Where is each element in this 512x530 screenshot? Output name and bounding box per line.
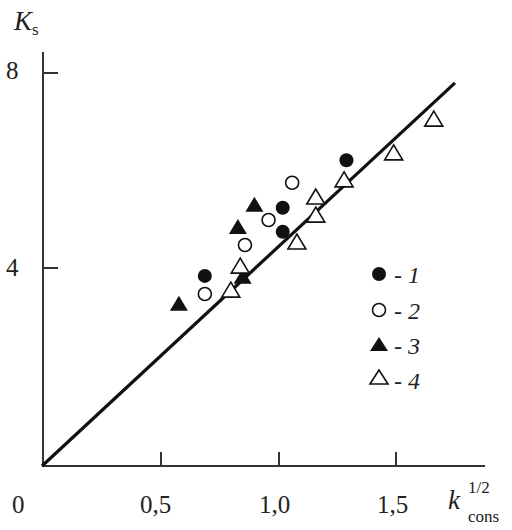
legend-marker-filled-triangle	[370, 337, 388, 351]
x-tick-label-15: 1,5	[377, 492, 408, 517]
x-tick-label-05: 0,5	[140, 492, 171, 517]
data-point-series-2	[286, 176, 299, 189]
data-point-series-4	[307, 207, 325, 222]
data-point-series-2	[198, 288, 211, 301]
data-point-series-1	[339, 153, 353, 167]
data-point-series-4	[231, 258, 249, 273]
data-point-series-4	[425, 111, 443, 126]
data-point-series-3	[245, 197, 263, 212]
x-tick-label-10: 1,0	[259, 492, 290, 517]
legend-marker-open-triangle	[370, 370, 388, 384]
legend-label-3: - 3	[394, 333, 420, 360]
y-tick-label-8: 8	[6, 58, 19, 83]
data-point-series-2	[262, 214, 275, 227]
data-point-series-1	[276, 225, 290, 239]
legend-label-4: - 4	[394, 368, 420, 395]
scatter-plot	[0, 0, 512, 530]
data-point-series-4	[307, 189, 325, 204]
legend-marker-filled-circle	[372, 267, 386, 281]
data-point-series-3	[170, 296, 188, 311]
data-point-series-2	[238, 239, 251, 252]
data-point-series-1	[198, 269, 212, 283]
y-axis-label: Ks	[14, 8, 39, 38]
x-tick-label-0: 0	[12, 492, 25, 517]
y-tick-label-4: 4	[6, 255, 19, 280]
legend-marker-open-circle	[373, 304, 386, 317]
legend-label-1: - 1	[394, 262, 420, 289]
legend	[370, 267, 388, 384]
legend-label-2: - 2	[394, 298, 420, 325]
data-point-series-1	[276, 201, 290, 215]
x-axis-label: k1/2cons	[448, 487, 460, 514]
data-point-series-3	[229, 219, 247, 234]
